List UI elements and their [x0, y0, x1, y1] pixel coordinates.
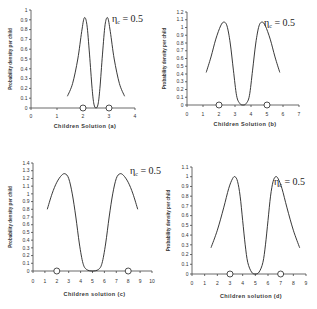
y-tick-label: 1	[27, 191, 30, 197]
x-tick-label: 2	[55, 278, 58, 284]
x-tick-label: 2	[216, 280, 219, 286]
y-tick-label: 1.1	[23, 183, 30, 189]
y-tick-label: 0.8	[21, 26, 28, 32]
y-tick-label: 0.6	[21, 46, 28, 52]
x-tick-label: 4	[241, 280, 244, 286]
y-tick-label: 0.5	[21, 56, 28, 62]
x-tick-label: 9	[139, 278, 142, 284]
y-tick-label: 0.4	[182, 232, 189, 238]
y-tick-label: 0.1	[177, 94, 184, 100]
y-tick-label: 0.3	[182, 242, 189, 248]
eta-annotation: ηc = 0.5	[130, 165, 161, 177]
x-tick-label: 5	[91, 278, 94, 284]
x-tick-label: 4	[134, 113, 137, 119]
x-tick-label: 7	[115, 278, 118, 284]
y-axis-label: Probability density per child	[8, 28, 13, 90]
x-tick-label: 1	[56, 113, 59, 119]
y-tick-label: 0.9	[21, 17, 28, 23]
y-tick-label: 0.5	[177, 63, 184, 69]
y-tick-label: 0.2	[23, 252, 30, 258]
x-tick-label: 0	[30, 113, 33, 119]
x-axis-label: Children Solution (b)	[214, 121, 277, 127]
density-curve	[47, 174, 137, 271]
x-tick-label: 4	[250, 111, 253, 117]
parent-marker	[278, 271, 284, 277]
y-tick-label: 0.5	[182, 222, 189, 228]
y-tick-label: 1.1	[182, 164, 189, 170]
x-tick-label: 3	[108, 113, 111, 119]
x-tick-label: 5	[266, 111, 269, 117]
y-tick-label: 1.1	[177, 16, 184, 22]
y-tick-label: 0.4	[177, 71, 184, 77]
y-axis-label: Probability density per child	[166, 190, 171, 252]
y-tick-label: 0.6	[182, 212, 189, 218]
chart-panel-d: 00.10.20.30.40.50.60.70.80.911.101234567…	[166, 164, 308, 299]
y-tick-label: 0.9	[182, 183, 189, 189]
density-curve	[211, 177, 300, 274]
y-tick-label: 0.4	[21, 66, 28, 72]
x-tick-label: 7	[298, 111, 301, 117]
y-tick-label: 0	[186, 271, 189, 277]
y-tick-label: 0.3	[23, 245, 30, 251]
y-tick-label: 0.7	[177, 47, 184, 53]
y-tick-label: 0.4	[23, 237, 30, 243]
y-axis-label: Probability density per child	[8, 186, 13, 248]
x-tick-label: 1	[44, 278, 47, 284]
parent-marker	[227, 271, 233, 277]
x-tick-label: 6	[103, 278, 106, 284]
x-tick-label: 3	[67, 278, 70, 284]
y-tick-label: 0.7	[23, 214, 30, 220]
x-tick-label: 1	[202, 111, 205, 117]
parent-marker	[106, 105, 112, 111]
parent-marker	[80, 105, 86, 111]
x-tick-label: 3	[229, 280, 232, 286]
x-tick-label: 9	[305, 280, 308, 286]
x-tick-label: 6	[267, 280, 270, 286]
y-tick-label: 0.3	[21, 75, 28, 81]
y-tick-label: 0.6	[23, 221, 30, 227]
x-tick-label: 7	[279, 280, 282, 286]
x-tick-label: 3	[234, 111, 237, 117]
y-tick-label: 0.8	[23, 206, 30, 212]
density-curve	[67, 18, 124, 108]
y-tick-label: 0.2	[21, 85, 28, 91]
parent-marker	[264, 102, 270, 108]
x-tick-label: 8	[292, 280, 295, 286]
x-tick-label: 6	[282, 111, 285, 117]
y-tick-label: 0	[27, 268, 30, 274]
y-tick-label: 0.9	[177, 32, 184, 38]
eta-annotation: ηc = 0.5	[112, 13, 143, 25]
y-tick-label: 1	[186, 173, 189, 179]
y-tick-label: 0.7	[21, 36, 28, 42]
density-curve	[206, 22, 280, 105]
x-tick-label: 2	[218, 111, 221, 117]
y-tick-label: 0.2	[177, 86, 184, 92]
x-axis-label: Children Solution (a)	[54, 123, 116, 129]
y-tick-label: 0.6	[177, 55, 184, 61]
y-tick-label: 1	[25, 7, 28, 13]
chart-panel-b: 00.10.20.30.40.50.60.70.80.911.11.201234…	[162, 9, 301, 127]
parent-marker	[216, 102, 222, 108]
chart-panel-a: 00.10.20.30.40.50.60.70.80.9101234Childr…	[8, 7, 143, 129]
y-tick-label: 1.3	[23, 167, 30, 173]
chart-figure: 00.10.20.30.40.50.60.70.80.9101234Childr…	[0, 0, 317, 309]
chart-panel-c: 00.10.20.30.40.50.60.70.80.911.11.21.31.…	[8, 160, 161, 297]
y-tick-label: 1.2	[23, 175, 30, 181]
x-tick-label: 0	[191, 280, 194, 286]
parent-marker	[54, 268, 60, 274]
y-tick-label: 1.4	[23, 160, 30, 166]
x-axis-label: Children solution (d)	[220, 293, 282, 299]
eta-annotation: ηc = 0.5	[274, 176, 305, 188]
y-axis-label: Probability density per child	[162, 28, 167, 90]
y-tick-label: 0.7	[182, 203, 189, 209]
y-tick-label: 0.1	[21, 95, 28, 101]
x-tick-label: 2	[82, 113, 85, 119]
x-tick-label: 10	[149, 278, 155, 284]
eta-annotation: ηc = 0.5	[264, 17, 295, 29]
x-tick-label: 8	[127, 278, 130, 284]
y-tick-label: 0.8	[182, 193, 189, 199]
y-tick-label: 0.1	[182, 261, 189, 267]
x-tick-label: 4	[79, 278, 82, 284]
y-tick-label: 0.2	[182, 251, 189, 257]
y-tick-label: 0.3	[177, 78, 184, 84]
